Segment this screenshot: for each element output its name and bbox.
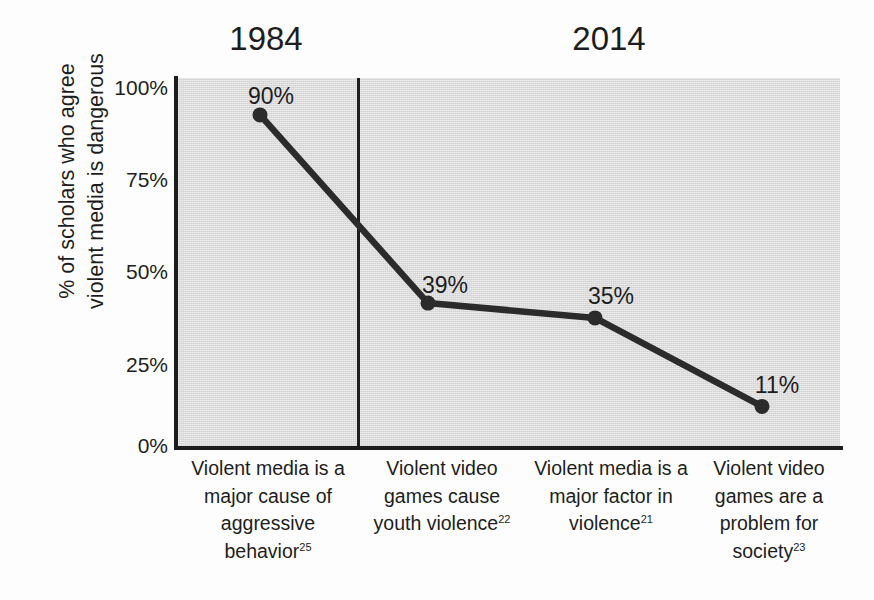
x-axis-line (174, 446, 843, 450)
category-label-1: Violent videogames causeyouth violence22 (360, 455, 524, 538)
category-1-line-0: Violent video (386, 457, 497, 479)
y-tick-100: 100% (90, 76, 168, 100)
y-axis-label-line-1: % of scholars who agree (53, 0, 82, 381)
category-label-2: Violent media is amajor factor inviolenc… (520, 455, 702, 538)
category-1-citation: 22 (498, 513, 510, 525)
category-3-line-0: Violent video (713, 457, 824, 479)
period-heading-1984: 1984 (186, 20, 346, 58)
period-divider-line (357, 78, 360, 448)
y-tick-75: 75% (90, 168, 168, 192)
x-axis-category-labels: Violent media is amajor cause ofaggressi… (0, 455, 874, 595)
point-label-1: 39% (400, 272, 490, 299)
category-0-line-2: aggressive (221, 512, 315, 534)
category-2-citation: 21 (641, 513, 653, 525)
category-label-3: Violent videogames are aproblem forsocie… (694, 455, 844, 565)
category-0-line-1: major cause of (204, 485, 332, 507)
category-0-line-3: behavior (224, 540, 299, 562)
category-0-line-0: Violent media is a (191, 457, 345, 479)
period-heading-2014: 2014 (529, 20, 689, 58)
category-label-0: Violent media is amajor cause ofaggressi… (176, 455, 360, 565)
category-3-line-3: society (733, 540, 794, 562)
chart-figure: 1984 2014 % of scholars who agree violen… (0, 0, 874, 600)
y-tick-50: 50% (90, 260, 168, 284)
category-0-citation: 25 (299, 540, 311, 552)
category-3-line-2: problem for (720, 512, 819, 534)
y-axis-line (174, 76, 178, 450)
category-1-line-2: youth violence (374, 512, 499, 534)
category-1-line-1: games cause (384, 485, 500, 507)
y-tick-25: 25% (90, 353, 168, 377)
category-2-line-0: Violent media is a (534, 457, 688, 479)
category-2-line-2: violence (569, 512, 641, 534)
point-label-2: 35% (566, 283, 656, 310)
point-label-3: 11% (732, 372, 822, 399)
category-3-citation: 23 (793, 540, 805, 552)
category-2-line-1: major factor in (549, 485, 673, 507)
category-3-line-1: games are a (715, 485, 823, 507)
point-label-0: 90% (226, 83, 316, 110)
